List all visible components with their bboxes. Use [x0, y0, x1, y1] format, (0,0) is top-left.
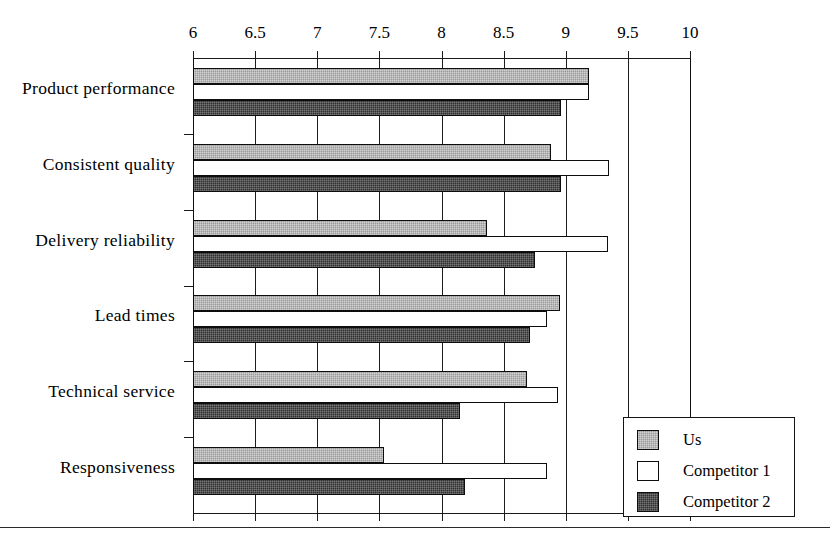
gridline-7 [317, 58, 318, 513]
legend-label: Us [683, 430, 701, 450]
tick-top-8 [442, 51, 443, 58]
bar [193, 100, 561, 116]
tick-top-10 [690, 51, 691, 58]
bar [193, 220, 487, 236]
legend-swatch-icon [637, 461, 659, 481]
tick-top-7 [317, 51, 318, 58]
category-label: Technical service [48, 382, 175, 401]
bar [193, 176, 561, 192]
bar [193, 84, 589, 100]
legend-item[interactable]: Competitor 2 [624, 486, 794, 518]
bar [193, 252, 535, 268]
x-tick-label: 7 [313, 24, 322, 42]
bar [193, 327, 530, 343]
x-tick-label: 9 [562, 24, 571, 42]
bar [193, 236, 608, 252]
category-tick [184, 134, 193, 135]
tick-bottom-7 [317, 513, 318, 521]
bar [193, 387, 558, 403]
x-tick-label: 8.5 [493, 24, 514, 42]
x-tick-label: 8 [437, 24, 446, 42]
tick-top-6.5 [255, 51, 256, 58]
x-tick-label: 6.5 [245, 24, 266, 42]
gridline-6 [193, 58, 194, 513]
bar [193, 447, 384, 463]
bar [193, 463, 547, 479]
x-tick-label: 9.5 [617, 24, 638, 42]
legend-label: Competitor 2 [683, 492, 771, 512]
legend-item[interactable]: Us [624, 424, 794, 456]
tick-top-6 [193, 51, 194, 58]
bar [193, 371, 527, 387]
category-tick [184, 437, 193, 438]
tick-bottom-9 [566, 513, 567, 521]
chart-figure: Product performanceConsistent qualityDel… [0, 0, 830, 540]
bar [193, 68, 589, 84]
bar [193, 295, 560, 311]
tick-top-8.5 [504, 51, 505, 58]
gridline-8 [442, 58, 443, 513]
tick-top-9 [566, 51, 567, 58]
tick-bottom-8.5 [504, 513, 505, 521]
footer-divider [0, 527, 830, 528]
gridline-7.5 [379, 58, 380, 513]
category-label: Delivery reliability [35, 230, 175, 249]
legend-label: Competitor 1 [683, 461, 771, 481]
bar [193, 403, 460, 419]
bar [193, 144, 551, 160]
tick-bottom-6 [193, 513, 194, 521]
category-label: Consistent quality [43, 154, 175, 173]
legend-item[interactable]: Competitor 1 [624, 455, 794, 487]
bar [193, 311, 547, 327]
tick-bottom-6.5 [255, 513, 256, 521]
tick-top-7.5 [379, 51, 380, 58]
category-label: Lead times [95, 306, 175, 325]
legend-swatch-icon [637, 492, 659, 512]
tick-bottom-7.5 [379, 513, 380, 521]
x-tick-label: 10 [682, 24, 699, 42]
plot-area: 66.577.588.599.510 [193, 58, 690, 513]
category-tick [184, 286, 193, 287]
category-label: Product performance [22, 78, 175, 97]
chart-legend: UsCompetitor 1Competitor 2 [623, 417, 795, 517]
bar [193, 479, 465, 495]
category-tick [184, 210, 193, 211]
category-tick [184, 361, 193, 362]
gridline-6.5 [255, 58, 256, 513]
legend-swatch-icon [637, 430, 659, 450]
gridline-9 [566, 58, 567, 513]
x-tick-label: 6 [189, 24, 198, 42]
category-label: Responsiveness [60, 458, 175, 477]
bar [193, 160, 609, 176]
x-tick-label: 7.5 [369, 24, 390, 42]
tick-top-9.5 [628, 51, 629, 58]
tick-bottom-8 [442, 513, 443, 521]
gridline-8.5 [504, 58, 505, 513]
